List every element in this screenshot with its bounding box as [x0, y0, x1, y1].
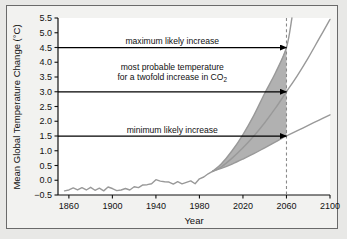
temperature-projection-chart: −0.50.00.51.01.52.02.53.03.54.04.55.05.5…	[0, 0, 347, 239]
y-tick-label: 4.5	[39, 43, 52, 53]
y-tick-label: 0.0	[39, 175, 52, 185]
y-tick-label: 3.0	[39, 87, 52, 97]
y-tick-label: 2.0	[39, 116, 52, 126]
y-tick-label: 2.5	[39, 102, 52, 112]
x-axis-title: Year	[184, 215, 203, 226]
y-tick-label: 5.0	[39, 28, 52, 38]
y-tick-label: 5.5	[39, 13, 52, 23]
x-tick-label: 1940	[146, 201, 166, 211]
y-tick-label: 1.0	[39, 146, 52, 156]
co2-subscript: 2	[223, 76, 227, 83]
x-tick-label: 1900	[102, 201, 122, 211]
x-tick-label: 2060	[276, 201, 296, 211]
x-tick-label: 2100	[320, 201, 340, 211]
y-axis-title: Mean Global Temperature Change (°C)	[11, 24, 22, 189]
most-probable-label-line2: for a twofold increase in CO2	[117, 72, 227, 83]
minimum-likely-increase-label: minimum likely increase	[127, 125, 218, 135]
figure-container: −0.50.00.51.01.52.02.53.03.54.04.55.05.5…	[0, 0, 347, 239]
y-tick-label: 3.5	[39, 72, 52, 82]
x-tick-label: 1860	[59, 201, 79, 211]
y-tick-label: 4.0	[39, 57, 52, 67]
x-tick-label: 2020	[233, 201, 253, 211]
most-probable-label-line1: most probable temperature	[121, 62, 224, 72]
y-tick-label: 0.5	[39, 161, 52, 171]
y-axis-tick-labels: −0.50.00.51.01.52.02.53.03.54.04.55.05.5	[34, 13, 52, 200]
y-tick-label: −0.5	[34, 190, 52, 200]
most-probable-label-line2-prefix: for a twofold increase in CO	[117, 72, 223, 82]
x-axis-tick-labels: 1860190019401980202020602100	[59, 201, 340, 211]
x-tick-label: 1980	[189, 201, 209, 211]
y-tick-label: 1.5	[39, 131, 52, 141]
maximum-likely-increase-label: maximum likely increase	[125, 36, 219, 46]
